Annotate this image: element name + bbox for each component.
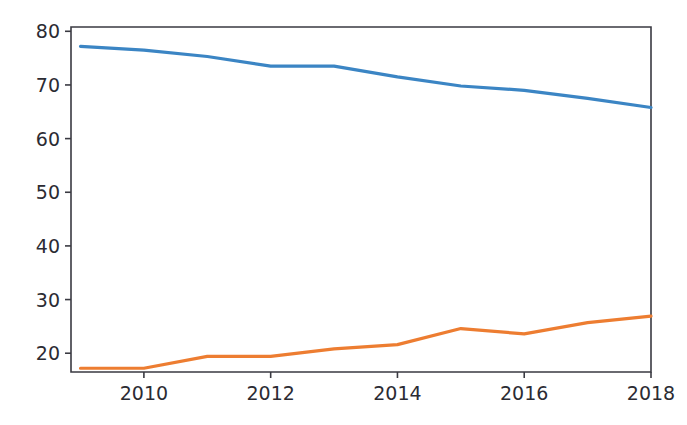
y-tick-label: 40: [36, 235, 60, 257]
y-tick-label: 50: [36, 181, 60, 203]
x-tick-label: 2018: [627, 382, 675, 404]
line-chart: 20102012201420162018 20304050607080: [0, 0, 687, 425]
y-tick-label: 80: [36, 20, 60, 42]
chart-background: [0, 0, 687, 425]
y-tick-label: 30: [36, 289, 60, 311]
y-tick-label: 20: [36, 342, 60, 364]
x-tick-label: 2016: [500, 382, 548, 404]
x-tick-label: 2010: [120, 382, 168, 404]
x-tick-label: 2012: [246, 382, 294, 404]
y-tick-label: 70: [36, 74, 60, 96]
x-tick-label: 2014: [373, 382, 421, 404]
chart-figure: 20102012201420162018 20304050607080: [0, 0, 687, 425]
y-tick-label: 60: [36, 128, 60, 150]
